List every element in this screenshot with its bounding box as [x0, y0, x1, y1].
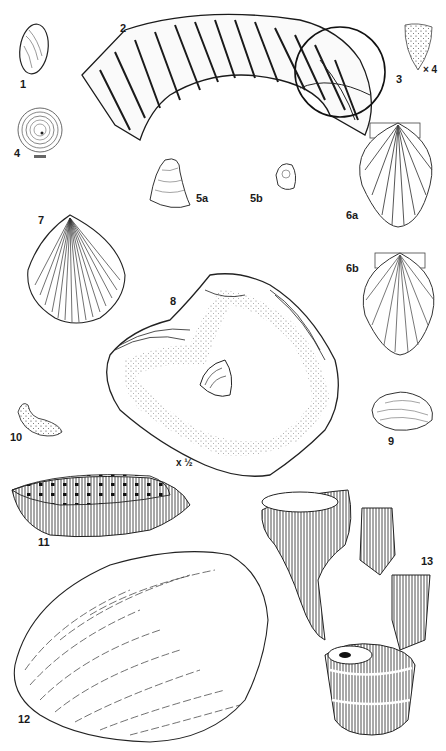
- fossil-plate: 1 2 3 × 4 4 5a 5b 6a 6b 7 8 x ½ 9 10 11 …: [0, 0, 446, 751]
- figure-label-13: 13: [421, 556, 433, 567]
- figure-label-11: 11: [38, 537, 50, 548]
- figure-label-8: 8: [170, 296, 176, 307]
- figure-label-6a: 6a: [346, 210, 358, 221]
- figure-13-coral: [262, 490, 430, 735]
- figure-3-scale: × 4: [423, 65, 437, 75]
- figure-12-oyster: [14, 552, 268, 742]
- figure-label-10: 10: [10, 432, 22, 443]
- figure-11-coral: [12, 475, 190, 537]
- figure-6a-scallop: [360, 123, 432, 227]
- figure-5b-shell: [276, 164, 296, 190]
- figure-5a-shell: [150, 159, 190, 208]
- figure-label-6b: 6b: [346, 263, 359, 274]
- figure-7-bivalve: [28, 215, 125, 323]
- figure-label-4: 4: [14, 148, 20, 159]
- figure-9-clam: [372, 392, 433, 430]
- figure-label-2: 2: [120, 23, 126, 34]
- figure-8-oyster: [107, 274, 339, 477]
- figure-label-3: 3: [396, 74, 402, 85]
- figure-2-ammonite: [82, 14, 385, 140]
- figure-10-fragment: [18, 404, 62, 436]
- figure-label-12: 12: [18, 714, 30, 725]
- figure-8-scale: x ½: [176, 458, 193, 468]
- figure-label-1: 1: [20, 79, 26, 90]
- figure-label-5a: 5a: [196, 193, 208, 204]
- figure-6b-scallop: [363, 253, 434, 355]
- figure-label-5b: 5b: [250, 193, 263, 204]
- figure-label-9: 9: [388, 436, 394, 447]
- plate-illustrations: [0, 0, 446, 751]
- figure-label-7: 7: [38, 215, 44, 226]
- figure-1-shell: [17, 22, 52, 75]
- figure-4-coil: [18, 108, 62, 158]
